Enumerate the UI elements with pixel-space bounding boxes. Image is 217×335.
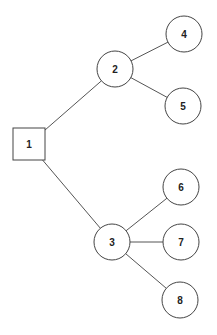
node-3: 3 (94, 224, 130, 260)
node-1: 1 (13, 128, 45, 160)
node-label: 3 (109, 237, 115, 248)
tree-diagram: 12345678 (0, 0, 217, 335)
edge-3-6 (126, 198, 167, 231)
node-7: 7 (163, 224, 199, 260)
node-8: 8 (162, 282, 198, 318)
node-2: 2 (97, 51, 133, 87)
node-4: 4 (166, 16, 202, 52)
node-label: 5 (180, 101, 186, 112)
node-label: 2 (112, 64, 118, 75)
node-5: 5 (165, 88, 201, 124)
node-label: 6 (178, 182, 184, 193)
edge-2-4 (131, 42, 168, 61)
node-6: 6 (163, 169, 199, 205)
node-label: 8 (177, 295, 183, 306)
edge-1-2 (45, 81, 101, 130)
node-label: 4 (181, 29, 187, 40)
node-label: 7 (178, 237, 184, 248)
edge-1-3 (43, 160, 101, 228)
edge-2-5 (131, 78, 167, 98)
edge-3-8 (126, 254, 167, 289)
node-label: 1 (26, 139, 32, 150)
